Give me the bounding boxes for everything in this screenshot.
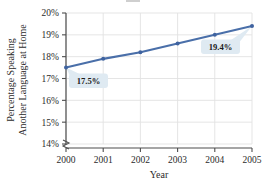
x-axis-ticks: 200020012002200320042005 [57, 148, 262, 165]
x-tick-label: 2002 [131, 155, 150, 165]
callout-19-4: 19.4% [201, 40, 240, 55]
line-chart: 14%15%16%17%18%19%20% 200020012002200320… [0, 0, 266, 184]
y-tick-label: 19% [42, 30, 60, 40]
y-tick-label: 20% [42, 8, 60, 18]
x-tick-label: 2004 [205, 155, 224, 165]
data-point [64, 66, 68, 70]
y-tick-label: 14% [42, 139, 60, 149]
y-tick-label: 17% [42, 74, 60, 84]
data-point [101, 57, 105, 61]
x-tick-label: 2000 [57, 155, 76, 165]
data-point [176, 42, 180, 46]
x-tick-label: 2005 [243, 155, 262, 165]
data-point [250, 24, 254, 28]
y-tick-label: 15% [42, 118, 60, 128]
y-axis-title-line2: Another Language at Home [17, 24, 28, 136]
y-axis-title-line1: Percentage Speaking [5, 38, 16, 122]
page-cut-mark [126, 0, 140, 2]
chart-container: 14%15%16%17%18%19%20% 200020012002200320… [0, 0, 266, 184]
x-tick-label: 2001 [94, 155, 113, 165]
x-tick-label: 2003 [168, 155, 187, 165]
data-point [213, 33, 217, 37]
callout-17-5: 17.5% [69, 74, 108, 89]
data-point [138, 50, 142, 54]
y-tick-label: 16% [42, 96, 60, 106]
callout-left-label: 17.5% [77, 76, 101, 86]
y-tick-label: 18% [42, 52, 60, 62]
callout-right-label: 19.4% [209, 42, 233, 52]
y-axis-ticks: 14%15%16%17%18%19%20% [42, 8, 66, 149]
x-axis-title: Year [150, 169, 169, 180]
